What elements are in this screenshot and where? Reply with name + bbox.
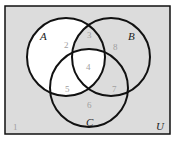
region-7-number: 7 [112, 84, 117, 94]
region-6-number: 6 [87, 100, 92, 110]
region-5-number: 5 [65, 84, 70, 94]
region-4-number: 4 [86, 62, 91, 72]
set-c-label: C [86, 116, 94, 128]
region-8-number: 8 [113, 42, 118, 52]
universe-label: U [156, 120, 165, 132]
region-3-number: 3 [87, 30, 92, 40]
region-1-number: 1 [13, 122, 18, 132]
set-b-label: B [128, 30, 135, 42]
region-2-number: 2 [64, 40, 69, 50]
venn-diagram: A B C U 1 2 3 4 5 6 7 8 [0, 0, 183, 143]
set-a-label: A [39, 30, 47, 42]
